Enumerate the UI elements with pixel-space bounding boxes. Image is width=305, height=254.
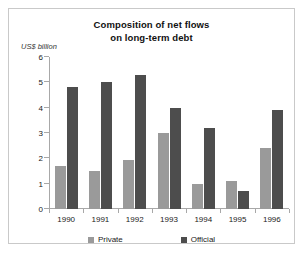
bar-private-1995 — [226, 181, 237, 209]
legend-item-private[interactable]: Private — [88, 235, 123, 244]
x-tick — [255, 209, 256, 213]
bar-group — [158, 57, 181, 209]
plot-area: 0123456 — [49, 57, 289, 209]
bar-official-1992 — [135, 75, 146, 209]
bar-official-1993 — [170, 108, 181, 209]
bar-private-1994 — [192, 184, 203, 209]
x-axis-label-1994: 1994 — [194, 215, 212, 224]
bar-group — [260, 57, 283, 209]
legend-label: Private — [98, 235, 123, 244]
legend-swatch-icon — [181, 237, 187, 243]
y-tick-label: 2 — [27, 154, 43, 163]
bar-official-1995 — [238, 191, 249, 209]
legend-swatch-icon — [88, 237, 94, 243]
x-tick — [186, 209, 187, 213]
y-tick — [44, 157, 49, 158]
bar-group — [226, 57, 249, 209]
y-tick-label: 3 — [27, 129, 43, 138]
x-axis-label-1993: 1993 — [160, 215, 178, 224]
y-tick — [44, 107, 49, 108]
x-axis-label-1990: 1990 — [57, 215, 75, 224]
x-tick — [152, 209, 153, 213]
x-axis-label-1996: 1996 — [263, 215, 281, 224]
bar-official-1991 — [101, 82, 112, 209]
legend-item-official[interactable]: Official — [181, 235, 215, 244]
x-tick — [220, 209, 221, 213]
x-axis-label-1991: 1991 — [92, 215, 110, 224]
bar-group — [123, 57, 146, 209]
bar-private-1990 — [55, 166, 66, 209]
x-tick — [49, 209, 50, 213]
legend-label: Official — [191, 235, 215, 244]
bar-private-1991 — [89, 171, 100, 209]
chart-title-line-1: Composition of net flows — [9, 19, 294, 32]
chart-frame: Composition of net flows on long-term de… — [8, 8, 295, 244]
bar-official-1994 — [204, 128, 215, 209]
y-tick-label: 4 — [27, 103, 43, 112]
y-tick — [44, 56, 49, 57]
y-axis-label: US$ billion — [21, 42, 57, 51]
x-tick — [289, 209, 290, 213]
y-tick — [44, 183, 49, 184]
y-tick-label: 1 — [27, 179, 43, 188]
y-tick — [44, 81, 49, 82]
x-axis-label-1992: 1992 — [126, 215, 144, 224]
bar-official-1990 — [67, 87, 78, 209]
chart-title: Composition of net flows on long-term de… — [9, 19, 294, 44]
bar-group — [55, 57, 78, 209]
x-tick — [118, 209, 119, 213]
x-tick — [83, 209, 84, 213]
bar-private-1996 — [260, 148, 271, 209]
y-tick — [44, 132, 49, 133]
chart-legend: PrivateOfficial — [9, 235, 294, 244]
y-tick-label: 0 — [27, 205, 43, 214]
bar-private-1992 — [123, 160, 134, 209]
bar-group — [89, 57, 112, 209]
y-tick-label: 5 — [27, 78, 43, 87]
bar-official-1996 — [272, 110, 283, 209]
y-tick-label: 6 — [27, 53, 43, 62]
y-axis-line — [49, 57, 50, 209]
bar-private-1993 — [158, 133, 169, 209]
bar-group — [192, 57, 215, 209]
x-axis-label-1995: 1995 — [229, 215, 247, 224]
